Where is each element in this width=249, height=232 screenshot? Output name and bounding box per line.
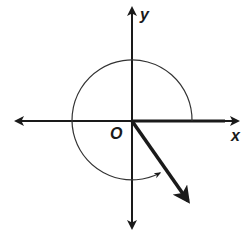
x-axis-label: x — [230, 127, 241, 144]
terminal-ray — [132, 121, 188, 201]
y-axis-label: y — [139, 6, 150, 23]
coordinate-diagram: y x O — [0, 0, 249, 232]
origin-label: O — [110, 125, 123, 142]
